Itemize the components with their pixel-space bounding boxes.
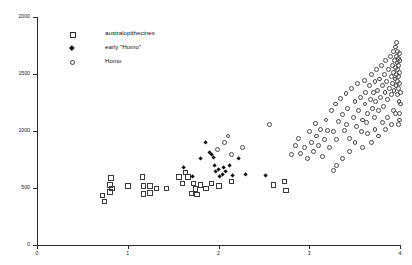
data-point <box>125 183 130 188</box>
data-point <box>329 108 334 113</box>
x-tick-label: 1 <box>118 251 138 256</box>
data-point <box>364 120 369 125</box>
data-point <box>324 118 329 123</box>
data-point <box>231 173 236 178</box>
data-point <box>367 83 372 88</box>
data-point <box>311 149 316 154</box>
data-point <box>365 111 370 116</box>
data-point <box>236 156 241 161</box>
data-point <box>363 90 368 95</box>
data-point <box>349 86 354 91</box>
data-point <box>373 127 378 132</box>
data-point <box>229 152 234 157</box>
x-tick-label: 0 <box>27 251 47 256</box>
data-point <box>381 104 386 109</box>
x-tick <box>400 245 401 249</box>
data-point <box>353 99 358 104</box>
legend-label: early "Homo" <box>105 43 141 50</box>
data-point <box>209 181 214 186</box>
data-point <box>267 122 272 127</box>
data-point <box>347 149 352 154</box>
data-point <box>394 40 399 45</box>
y-tick-label: 2000 <box>18 14 30 19</box>
data-point <box>384 79 389 84</box>
data-point <box>397 111 402 116</box>
data-point <box>374 67 379 72</box>
data-point <box>191 174 196 179</box>
data-point <box>216 183 221 188</box>
data-point <box>340 156 345 161</box>
data-point <box>141 191 146 196</box>
data-point <box>109 186 114 191</box>
data-point <box>398 90 403 95</box>
data-point <box>222 140 227 145</box>
scatter-chart-root: 0500100015002000 01234 australopithecine… <box>0 0 412 265</box>
data-point <box>334 137 339 142</box>
data-point <box>359 129 364 134</box>
data-point <box>340 112 345 117</box>
data-point <box>198 156 203 161</box>
y-tick-label: 1500 <box>18 71 30 76</box>
data-point <box>331 129 336 134</box>
data-point <box>397 70 402 75</box>
data-point <box>213 163 218 168</box>
data-point <box>320 154 325 159</box>
data-point <box>100 193 105 198</box>
y-tick-label: 500 <box>21 185 30 190</box>
data-point <box>372 115 377 120</box>
data-point <box>376 108 381 113</box>
data-point <box>147 190 152 195</box>
data-point <box>191 181 196 186</box>
data-point <box>360 145 365 150</box>
y-tick <box>33 17 37 18</box>
data-point <box>212 155 217 160</box>
data-point <box>398 102 403 107</box>
data-point <box>378 95 383 100</box>
data-point <box>282 179 287 184</box>
data-point <box>271 182 276 187</box>
data-point <box>370 106 375 111</box>
data-point <box>379 63 384 68</box>
data-point <box>358 95 363 100</box>
data-point <box>355 81 360 86</box>
data-point <box>389 92 394 97</box>
x-tick-label: 3 <box>299 251 319 256</box>
data-point <box>373 99 378 104</box>
data-point <box>347 136 352 141</box>
data-point <box>369 72 374 77</box>
data-point <box>102 199 107 204</box>
data-point <box>307 129 312 134</box>
data-point <box>397 81 402 86</box>
data-point <box>331 168 336 173</box>
data-point <box>380 120 385 125</box>
legend-label: australopithecines <box>105 29 155 36</box>
data-point <box>345 106 350 111</box>
data-point <box>325 128 330 133</box>
x-tick-label: 4 <box>390 251 410 256</box>
data-point <box>336 119 341 124</box>
data-point <box>318 127 323 132</box>
data-point <box>369 140 374 145</box>
data-point <box>305 156 310 161</box>
data-point <box>316 143 321 148</box>
data-point <box>164 186 169 191</box>
data-point <box>362 78 367 83</box>
data-point <box>365 131 370 136</box>
data-point <box>263 173 268 178</box>
open-circle-icon <box>70 60 75 65</box>
x-tick <box>37 245 38 249</box>
data-point <box>147 183 152 188</box>
data-point <box>296 136 301 141</box>
data-point <box>376 134 381 139</box>
data-point <box>215 147 220 152</box>
data-point <box>302 145 307 150</box>
data-point <box>283 188 288 193</box>
data-point <box>354 124 359 129</box>
data-point <box>229 179 234 184</box>
y-tick-label: 1000 <box>18 128 30 133</box>
data-point <box>180 181 185 186</box>
data-point <box>227 163 232 168</box>
data-point <box>389 122 394 127</box>
data-point <box>391 108 396 113</box>
data-point <box>240 145 245 150</box>
